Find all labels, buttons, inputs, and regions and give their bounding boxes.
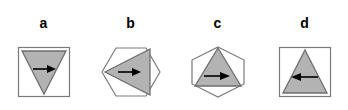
panel-glyph-c	[174, 45, 261, 99]
panel-label-b: b	[87, 15, 174, 31]
panel-d: d	[261, 0, 348, 110]
panel-glyph-d	[261, 45, 348, 99]
panel-label-d: d	[261, 15, 348, 31]
panel-a: a	[0, 0, 87, 110]
panel-glyph-a	[0, 45, 87, 99]
panel-glyph-b	[87, 45, 174, 99]
panel-b: b	[87, 0, 174, 110]
panel-label-c: c	[174, 15, 261, 31]
figure-panels-container: a b c	[0, 0, 348, 110]
panel-c: c	[174, 0, 261, 110]
panel-label-a: a	[0, 15, 87, 31]
